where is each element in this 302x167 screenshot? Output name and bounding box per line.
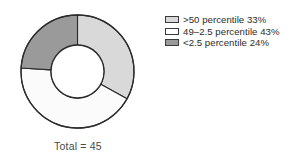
legend-label: 49–2.5 percentile 43%	[183, 26, 280, 37]
legend-item: >50 percentile 33%	[165, 14, 300, 25]
donut-chart-svg	[19, 13, 136, 130]
legend-label: <2.5 percentile 24%	[183, 37, 269, 48]
legend-item: <2.5 percentile 24%	[165, 37, 300, 48]
legend-swatch-above-50	[165, 16, 179, 23]
chart-legend: >50 percentile 33% 49–2.5 percentile 43%…	[165, 14, 300, 49]
donut-chart	[19, 13, 136, 130]
donut-chart-figure: Total = 45 >50 percentile 33% 49–2.5 per…	[0, 0, 302, 167]
legend-swatch-below-2-5	[165, 39, 179, 46]
legend-label: >50 percentile 33%	[183, 14, 266, 25]
donut-inner-hole	[51, 45, 104, 98]
legend-swatch-49-to-2-5	[165, 28, 179, 35]
total-caption: Total = 45	[0, 140, 156, 152]
legend-item: 49–2.5 percentile 43%	[165, 26, 300, 37]
